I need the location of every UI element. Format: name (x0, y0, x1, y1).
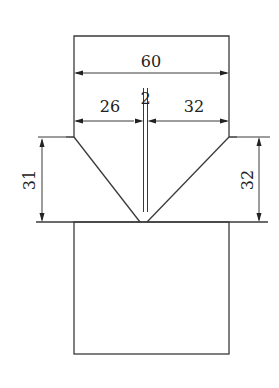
dimension-total-width: 60 (74, 52, 229, 76)
dimension-label-26: 26 (100, 97, 120, 116)
diagram-canvas: 60 26 2 32 31 32 (0, 0, 279, 388)
dimension-label-2: 2 (140, 89, 150, 108)
dimension-label-31: 31 (20, 170, 39, 190)
dimension-label-32-horizontal: 32 (184, 97, 204, 116)
dimension-label-60: 60 (141, 52, 161, 71)
dimension-right-height: 32 (237, 137, 270, 222)
dimension-left-height: 31 (20, 138, 45, 222)
lower-block (74, 222, 229, 354)
dimension-label-32-vertical: 32 (238, 170, 257, 190)
dimension-segments: 26 2 32 (74, 89, 229, 124)
